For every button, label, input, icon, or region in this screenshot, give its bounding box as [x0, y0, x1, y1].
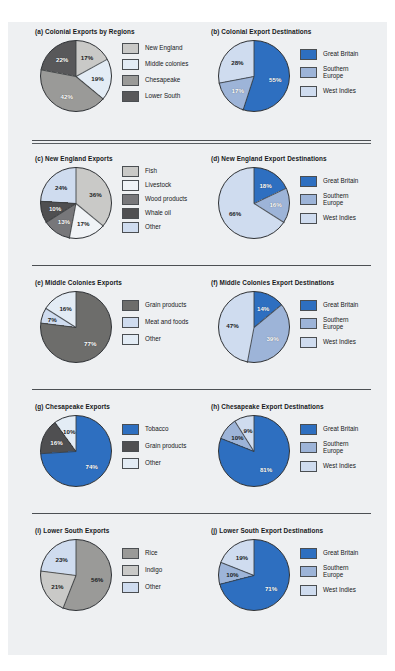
chart-panel-h: (h) Chesapeake Export Destinations81%10%… [200, 403, 386, 519]
chart-row: (a) Colonial Exports by Regions17%19%42%… [8, 22, 387, 149]
legend-label: Fish [145, 168, 157, 175]
legend-item: West Indies [300, 585, 358, 596]
legend-swatch-icon [122, 43, 139, 54]
legend-item: New England [122, 43, 188, 54]
legend-e: Grain productsMeat and foodsOther [122, 300, 188, 351]
legend-item: Great Britain [300, 548, 358, 559]
legend-item: West Indies [300, 86, 358, 97]
legend-swatch-icon [122, 194, 139, 205]
legend-item: Southern Europe [300, 441, 358, 455]
chart-title-a: (a) Colonial Exports by Regions [26, 28, 212, 35]
legend-item: Great Britain [300, 300, 358, 311]
chart-body-a: 17%19%42%22%New EnglandMiddle coloniesCh… [26, 37, 212, 137]
legend-b: Great BritainSouthern EuropeWest Indies [300, 49, 358, 103]
legend-label: West Indies [323, 88, 356, 95]
legend-label: Indigo [145, 567, 162, 574]
figure-page: (a) Colonial Exports by Regions17%19%42%… [8, 22, 387, 655]
chart-title-b: (b) Colonial Export Destinations [200, 28, 386, 35]
legend-label: Other [145, 224, 161, 231]
legend-item: Other [122, 458, 186, 469]
legend-label: Grain products [145, 302, 186, 309]
row-divider [32, 389, 371, 390]
chart-row: (g) Chesapeake Exports74%16%10%TobaccoGr… [8, 397, 387, 521]
legend-label: Southern Europe [323, 66, 349, 80]
slice-edge-e-0 [76, 292, 77, 328]
legend-swatch-icon [300, 86, 317, 97]
legend-label: West Indies [323, 339, 356, 346]
legend-swatch-icon [300, 461, 317, 472]
slice-edge-i-0 [76, 540, 77, 576]
chart-title-e: (e) Middle Colonies Exports [26, 279, 212, 286]
legend-label: Great Britain [323, 426, 358, 433]
chart-body-i: 56%21%23%RiceIndigoOther [26, 536, 212, 636]
legend-swatch-icon [122, 548, 139, 559]
legend-a: New EnglandMiddle coloniesChesapeakeLowe… [122, 43, 188, 107]
legend-label: Wood products [145, 196, 187, 203]
legend-item: Great Britain [300, 176, 358, 187]
legend-swatch-icon [122, 91, 139, 102]
chart-panel-a: (a) Colonial Exports by Regions17%19%42%… [26, 28, 212, 144]
chart-body-b: 55%17%28%Great BritainSouthern EuropeWes… [200, 37, 386, 137]
legend-item: Great Britain [300, 424, 358, 435]
legend-swatch-icon [122, 180, 139, 191]
legend-label: Other [145, 584, 161, 591]
legend-label: Great Britain [323, 178, 358, 185]
legend-swatch-icon [122, 458, 139, 469]
legend-label: Other [145, 460, 161, 467]
legend-item: Grain products [122, 441, 186, 452]
legend-d: Great BritainSouthern EuropeWest Indies [300, 176, 358, 230]
chart-body-h: 81%10%9%Great BritainSouthern EuropeWest… [200, 412, 386, 512]
legend-item: West Indies [300, 213, 358, 224]
legend-swatch-icon [300, 318, 317, 329]
chart-body-e: 77%7%16%Grain productsMeat and foodsOthe… [26, 288, 212, 388]
legend-item: Chesapeake [122, 75, 188, 86]
legend-item: West Indies [300, 337, 358, 348]
legend-label: Grain products [145, 443, 186, 450]
chart-body-g: 74%16%10%TobaccoGrain productsOther [26, 412, 212, 512]
legend-label: Great Britain [323, 51, 358, 58]
legend-item: Indigo [122, 565, 162, 576]
slice-edge-j-0 [254, 540, 255, 576]
legend-label: West Indies [323, 463, 356, 470]
legend-swatch-icon [300, 548, 317, 559]
legend-swatch-icon [122, 166, 139, 177]
legend-swatch-icon [122, 300, 139, 311]
legend-label: Chesapeake [145, 77, 180, 84]
legend-swatch-icon [300, 67, 317, 78]
legend-h: Great BritainSouthern EuropeWest Indies [300, 424, 358, 478]
legend-label: Great Britain [323, 550, 358, 557]
legend-j: Great BritainSouthern EuropeWest Indies [300, 548, 358, 602]
slice-edge-g-0 [76, 416, 77, 452]
chart-body-d: 18%16%66%Great BritainSouthern EuropeWes… [200, 164, 386, 264]
legend-swatch-icon [300, 194, 317, 205]
chart-title-j: (j) Lower South Export Destinations [200, 527, 386, 534]
legend-item: Middle colonies [122, 59, 188, 70]
chart-title-h: (h) Chesapeake Export Destinations [200, 403, 386, 410]
chart-title-c: (c) New England Exports [26, 155, 212, 162]
slice-edge-a-0 [76, 41, 77, 77]
legend-swatch-icon [122, 334, 139, 345]
legend-swatch-icon [300, 337, 317, 348]
legend-swatch-icon [300, 49, 317, 60]
legend-item: Fish [122, 166, 187, 177]
legend-swatch-icon [300, 300, 317, 311]
chart-panel-b: (b) Colonial Export Destinations55%17%28… [200, 28, 386, 144]
legend-item: Grain products [122, 300, 188, 311]
legend-label: Southern Europe [323, 565, 349, 579]
slice-edge-d-0 [254, 168, 255, 204]
legend-swatch-icon [122, 208, 139, 219]
legend-swatch-icon [122, 424, 139, 435]
legend-label: Lower South [145, 93, 180, 100]
legend-label: West Indies [323, 587, 356, 594]
legend-label: Southern Europe [323, 317, 349, 331]
chart-title-i: (i) Lower South Exports [26, 527, 212, 534]
chart-grid: (a) Colonial Exports by Regions17%19%42%… [8, 22, 387, 645]
legend-swatch-icon [300, 176, 317, 187]
legend-swatch-icon [122, 59, 139, 70]
legend-item: Southern Europe [300, 317, 358, 331]
chart-row: (c) New England Exports36%17%13%10%24%Fi… [8, 149, 387, 273]
legend-swatch-icon [300, 424, 317, 435]
chart-row: (e) Middle Colonies Exports77%7%16%Grain… [8, 273, 387, 397]
legend-g: TobaccoGrain productsOther [122, 424, 186, 475]
row-divider [32, 513, 371, 514]
